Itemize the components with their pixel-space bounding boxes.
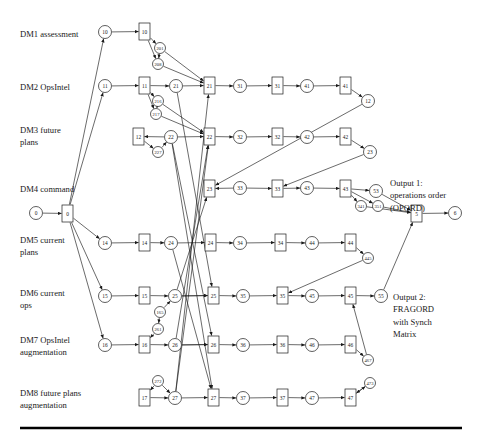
state-node-16[interactable]: 16 <box>99 339 112 352</box>
state-node-14[interactable]: 14 <box>99 237 112 250</box>
process-box-34[interactable]: 34 <box>275 234 286 251</box>
process-box-0[interactable]: 0 <box>62 205 73 222</box>
process-box-14[interactable]: 14 <box>139 234 150 251</box>
state-node-35[interactable]: 35 <box>237 290 250 303</box>
process-box-41[interactable]: 41 <box>340 77 351 94</box>
process-box-label: 47 <box>348 395 354 401</box>
state-node-21[interactable]: 21 <box>170 80 183 93</box>
state-node-label: 43 <box>304 185 310 191</box>
output-label-out2-line-3: Matrix <box>393 329 417 339</box>
process-box-46[interactable]: 46 <box>345 336 356 353</box>
state-node-15[interactable]: 15 <box>99 290 112 303</box>
state-node-label: 33 <box>237 185 243 191</box>
process-box-27[interactable]: 27 <box>208 389 219 406</box>
state-node-201[interactable]: 201 <box>155 43 166 54</box>
row-label-dm8: DM8 future plans <box>20 388 82 398</box>
state-node-36[interactable]: 36 <box>237 339 250 352</box>
state-node-22[interactable]: 22 <box>165 131 178 144</box>
process-box-23[interactable]: 23 <box>204 180 215 197</box>
state-node-55[interactable]: 55 <box>375 290 388 303</box>
state-node-label: 15 <box>102 293 108 299</box>
process-box-label: 44 <box>348 240 354 246</box>
process-box-label: 11 <box>142 83 147 89</box>
state-node-label: 11 <box>102 83 107 89</box>
edge-c227-to-c22 <box>162 142 166 147</box>
process-box-37[interactable]: 37 <box>277 389 288 406</box>
state-node-445[interactable]: 445 <box>363 253 374 264</box>
process-box-label: 35 <box>280 293 286 299</box>
state-node-46[interactable]: 46 <box>306 339 319 352</box>
state-node-43[interactable]: 43 <box>301 182 314 195</box>
process-box-42[interactable]: 42 <box>340 128 351 145</box>
process-box-22[interactable]: 22 <box>204 128 215 145</box>
state-node-53[interactable]: 53 <box>370 185 383 198</box>
state-node-31[interactable]: 31 <box>234 80 247 93</box>
process-box-26[interactable]: 26 <box>208 336 219 353</box>
process-box-11[interactable]: 11 <box>139 77 150 94</box>
process-box-24[interactable]: 24 <box>205 234 216 251</box>
state-node-165[interactable]: 165 <box>155 307 166 318</box>
process-box-44[interactable]: 44 <box>345 234 356 251</box>
process-box-25[interactable]: 25 <box>208 287 219 304</box>
edge-r43-to-c53 <box>352 189 370 190</box>
state-node-27[interactable]: 27 <box>169 392 182 405</box>
state-node-272[interactable]: 272 <box>153 376 164 387</box>
state-node-12[interactable]: 12 <box>362 95 375 108</box>
process-box-43[interactable]: 43 <box>340 180 351 197</box>
state-node-473[interactable]: 473 <box>365 378 376 389</box>
state-node-label: 34 <box>237 240 243 246</box>
process-box-17[interactable]: 17 <box>139 389 150 406</box>
process-box-47[interactable]: 47 <box>345 389 356 406</box>
state-node-label: 208 <box>155 62 163 67</box>
state-node-label: 16 <box>102 342 108 348</box>
state-node-37[interactable]: 37 <box>237 392 250 405</box>
state-node-25[interactable]: 25 <box>169 290 182 303</box>
process-box-10[interactable]: 10 <box>139 23 150 40</box>
process-box-45[interactable]: 45 <box>345 287 356 304</box>
process-box-35[interactable]: 35 <box>277 287 288 304</box>
state-node-6[interactable]: 6 <box>449 207 462 220</box>
process-box-31[interactable]: 31 <box>272 77 283 94</box>
process-box-33[interactable]: 33 <box>272 180 283 197</box>
process-box-16[interactable]: 16 <box>139 336 150 353</box>
process-box-21[interactable]: 21 <box>204 77 215 94</box>
state-node-216[interactable]: 216 <box>153 96 164 107</box>
state-node-24[interactable]: 24 <box>165 237 178 250</box>
state-node-23[interactable]: 23 <box>364 146 377 159</box>
state-node-label: 31 <box>237 83 243 89</box>
state-node-227[interactable]: 227 <box>153 147 164 158</box>
state-node-label: 272 <box>155 379 163 384</box>
state-node-351[interactable]: 351 <box>373 201 384 212</box>
state-node-44[interactable]: 44 <box>306 237 319 250</box>
state-node-261[interactable]: 261 <box>153 324 164 335</box>
state-node-11[interactable]: 11 <box>99 80 112 93</box>
state-node-34[interactable]: 34 <box>234 237 247 250</box>
state-node-41[interactable]: 41 <box>301 80 314 93</box>
process-box-15[interactable]: 15 <box>139 287 150 304</box>
state-node-217[interactable]: 217 <box>151 109 162 120</box>
state-node-341[interactable]: 341 <box>356 201 367 212</box>
process-box-36[interactable]: 36 <box>277 336 288 353</box>
state-node-33[interactable]: 33 <box>234 182 247 195</box>
state-node-label: 473 <box>367 381 375 386</box>
state-node-467[interactable]: 467 <box>363 355 374 366</box>
state-node-208[interactable]: 208 <box>153 59 164 70</box>
state-node-42[interactable]: 42 <box>301 131 314 144</box>
row-label-dm7b: augmentation <box>20 347 67 357</box>
output-label-out2-line-0: Output 2: <box>393 292 426 302</box>
process-box-12[interactable]: 12 <box>133 128 144 145</box>
edge-c165-to-c261 <box>159 318 160 323</box>
state-node-47[interactable]: 47 <box>306 392 319 405</box>
process-box-label: 17 <box>142 395 148 401</box>
process-box-label: 32 <box>275 134 281 140</box>
state-node-32[interactable]: 32 <box>234 131 247 144</box>
row-label-dm3b: plans <box>20 137 39 147</box>
process-box-label: 36 <box>280 342 286 348</box>
process-box-32[interactable]: 32 <box>272 128 283 145</box>
state-node-10[interactable]: 10 <box>99 26 112 39</box>
state-node-45[interactable]: 45 <box>306 290 319 303</box>
process-box-label: 41 <box>343 83 349 89</box>
edge-r42-to-c23 <box>352 140 365 148</box>
state-node-26[interactable]: 26 <box>169 339 182 352</box>
state-node-0[interactable]: 0 <box>30 207 43 220</box>
